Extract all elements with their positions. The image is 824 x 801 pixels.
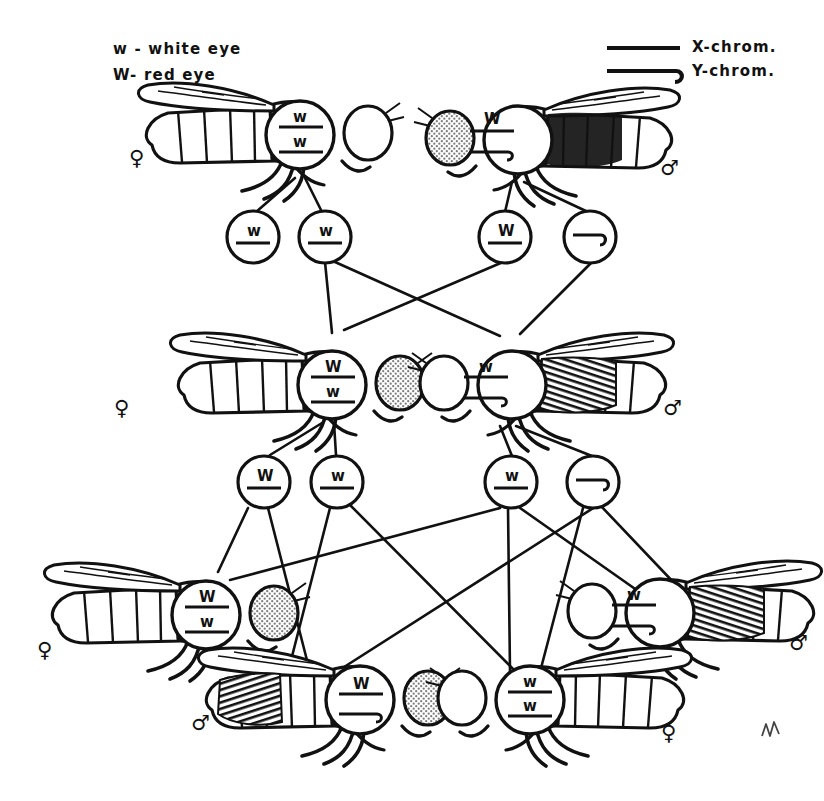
line-g2-f1f (325, 262, 332, 333)
allele-f2-male-left-top: W (353, 677, 370, 692)
figure-canvas: w - white eye W- red eye X-chrom. Y-chro… (0, 0, 824, 801)
gamete-label-g2-1: W (257, 469, 274, 484)
allele-f2-female-right-top: w (523, 675, 537, 690)
legend-x-chrom-label: X-chrom. (692, 38, 777, 56)
allele-f1-female-bottom: w (326, 385, 340, 400)
dark-abdomen (218, 673, 282, 725)
line-g3-f1f (344, 262, 503, 330)
line-g4-cross (330, 505, 598, 676)
legend-allele-white: w - white eye (113, 40, 242, 58)
gamete-label-g2-3: w (505, 469, 519, 484)
allele-f2-male-right-top: w (627, 588, 641, 603)
gamete-g2-4 (567, 456, 619, 508)
line-g2-f2fr (350, 505, 520, 676)
sex-symbol-f2-male-right: ♂ (789, 633, 808, 654)
sex-symbol-f1-female: ♀ (114, 398, 129, 419)
allele-f1-male-top: w (479, 360, 493, 375)
legend-y-chrom-label: Y-chrom. (692, 62, 775, 80)
eye-red (426, 111, 474, 165)
gamete-g1-4 (564, 211, 616, 263)
allele-p-female-top: w (293, 110, 307, 125)
sex-symbol-f2-male-left: ♂ (191, 713, 210, 734)
allele-p-female-bottom: w (293, 135, 307, 150)
gamete-label-g1-3: W (498, 224, 515, 239)
allele-f2-female-left-top: W (199, 590, 216, 605)
fly-p-male (414, 88, 680, 206)
eye-red (250, 586, 298, 640)
sex-symbol-f2-female-right: ♀ (661, 723, 676, 744)
eye-white (568, 584, 616, 638)
sex-symbol-f1-male: ♂ (663, 398, 682, 419)
gamete-label-g1-1: w (247, 224, 261, 239)
allele-p-male-top: W (484, 112, 501, 127)
gamete-label-g1-2: w (319, 224, 333, 239)
line-g3-vert (508, 508, 510, 672)
fly-p-female (138, 83, 404, 201)
eye-white (438, 671, 486, 725)
eye-white (420, 356, 468, 410)
fly-f1-male (408, 333, 674, 451)
legend-allele-red: W- red eye (113, 66, 216, 84)
artist-signature-mark (762, 722, 779, 736)
sex-symbol-f2-female-left: ♀ (37, 640, 52, 661)
line-g2-f2ml2 (288, 508, 330, 672)
dark-abdomen (688, 586, 764, 641)
allele-f2-female-left-bottom: w (200, 615, 214, 630)
dark-abdomen (546, 113, 622, 168)
gamete-label-g2-2: w (331, 469, 345, 484)
fly-f2-male-left (198, 648, 464, 766)
line-g1-f2fl (218, 508, 248, 572)
allele-f1-female-top: W (325, 360, 342, 375)
line-g4-f1m (520, 262, 592, 334)
sex-symbol-p-female: ♀ (129, 148, 144, 169)
eye-red (376, 356, 424, 410)
allele-f2-female-right-bottom: w (523, 699, 537, 714)
eye-white (344, 106, 392, 160)
sex-symbol-p-male: ♂ (660, 158, 679, 179)
legend-y-icon (607, 71, 682, 82)
dark-abdomen (540, 358, 616, 413)
fly-f2-female-right (426, 648, 692, 766)
